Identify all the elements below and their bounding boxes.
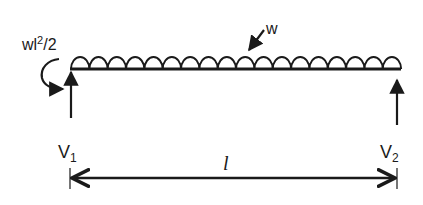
moment-label: wl2/2 (21, 34, 57, 53)
moment-arrow-icon (42, 59, 63, 89)
span-label: l (223, 152, 229, 174)
reaction-left-label: V1 (58, 142, 77, 165)
reaction-right-label: V2 (380, 142, 399, 165)
beam-diagram: w wl2/2 V1 V2 l (0, 0, 423, 205)
load-arrow-icon (249, 30, 264, 50)
load-label: w (265, 20, 278, 37)
distributed-load (71, 57, 401, 69)
